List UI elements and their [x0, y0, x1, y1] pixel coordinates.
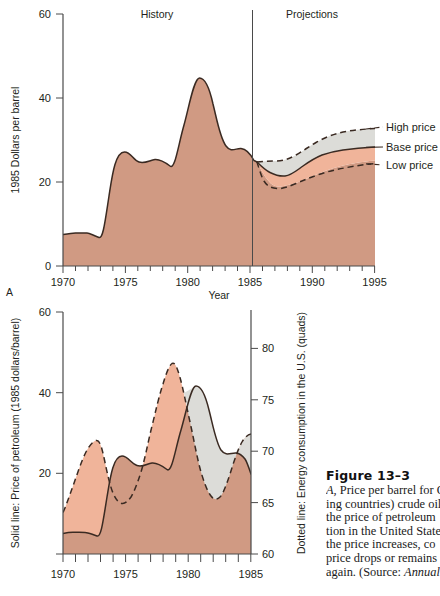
panel-letter-a: A	[6, 286, 13, 298]
y-tick-label-60b: 60	[39, 306, 51, 318]
y-axis-title-a: 1985 Dollars per barrel	[9, 87, 21, 194]
x-tick-label-1980a: 1980	[175, 276, 199, 288]
y-tick-label-40a: 40	[39, 92, 51, 104]
x-minor-ticks-a	[63, 266, 375, 273]
y-ticks-right-b	[251, 348, 258, 554]
y-tick-label-20b: 20	[39, 467, 51, 479]
y-tick-label-60a: 60	[39, 8, 51, 20]
x-tick-label-1985b: 1985	[239, 568, 263, 580]
figure-13-3: 0 20 40 60	[0, 0, 440, 596]
x-axis-title-a: Year	[208, 289, 230, 300]
y-tick-label-60-right: 60	[262, 548, 274, 560]
y-tick-label-0a: 0	[45, 260, 51, 272]
y-tick-label-65-right: 65	[262, 497, 274, 509]
caption-line-5: the price increases, co	[326, 538, 440, 552]
y-tick-label-40b: 40	[39, 387, 51, 399]
x-tick-label-1995a: 1995	[362, 276, 386, 288]
history-label: History	[141, 8, 174, 20]
area-fills-a	[63, 78, 375, 266]
x-tick-label-1975a: 1975	[113, 276, 137, 288]
panel-a-svg: 0 20 40 60	[0, 0, 440, 300]
x-tick-label-1980b: 1980	[176, 568, 200, 580]
caption-body: A, Price per barrel for O ing countries)…	[326, 484, 440, 579]
y-axis-title-right-b: Dotted line: Energy consumption in the U…	[295, 312, 307, 554]
area-fills-b	[63, 363, 251, 554]
figure-caption: Figure 13–3 A, Price per barrel for O in…	[326, 468, 440, 579]
caption-line-3: the price of petroleum	[326, 511, 440, 525]
caption-line-1: A, Price per barrel for O	[326, 484, 440, 498]
y-ticks-left-b	[56, 312, 63, 554]
caption-title: Figure 13–3	[326, 468, 440, 483]
caption-italic-prefix: A,	[326, 483, 337, 497]
y-ticks-a	[56, 14, 63, 266]
x-minor-ticks-b	[63, 554, 251, 562]
caption-line-2: ing countries) crude oil	[326, 498, 440, 512]
y-tick-label-80-right: 80	[262, 342, 274, 354]
caption-line-7: again. (Source: Annual	[326, 566, 440, 580]
y-tick-label-75-right: 75	[262, 394, 274, 406]
caption-line-4: tion in the United State	[326, 525, 440, 539]
x-tick-label-1970a: 1970	[51, 276, 75, 288]
caption-source-italic: Annual	[404, 565, 440, 579]
legend-label-base-price: Base price	[386, 141, 438, 153]
x-tick-label-1990a: 1990	[300, 276, 324, 288]
area-under-low-price	[63, 78, 375, 266]
x-tick-label-1985a: 1985	[238, 276, 262, 288]
legend-label-high-price: High price	[386, 121, 436, 133]
chart-panel-a: 0 20 40 60	[0, 0, 440, 300]
y-tick-label-20a: 20	[39, 176, 51, 188]
projections-label: Projections	[286, 8, 338, 20]
y-axis-title-left-b: Solid line: Price of petroleum (1985 dol…	[9, 318, 21, 549]
caption-line-6: price drops or remains	[326, 552, 440, 566]
legend-label-low-price: Low price	[386, 159, 433, 171]
y-tick-label-70-right: 70	[262, 445, 274, 457]
x-tick-label-1975b: 1975	[113, 568, 137, 580]
x-tick-label-1970b: 1970	[51, 568, 75, 580]
